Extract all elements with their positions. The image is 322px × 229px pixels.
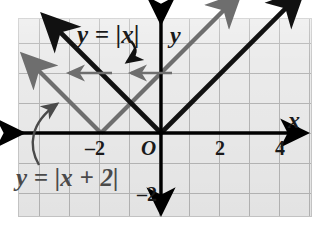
curve-y-equals-abs-x-plus-2 xyxy=(24,0,240,133)
label-transformed-function: y = |x + 2| xyxy=(16,165,119,190)
x-tick-label-4: 4 xyxy=(275,138,285,158)
label-parent-function: y = |x| xyxy=(77,22,140,47)
y-tick-label--2: –2 xyxy=(137,184,157,204)
x-tick-label--2: –2 xyxy=(85,138,105,158)
axis-label-y: y xyxy=(170,23,181,47)
axis-label-x: x xyxy=(288,108,300,132)
graph-vector-layer xyxy=(0,0,322,229)
x-tick-label-2: 2 xyxy=(215,138,225,158)
origin-label: O xyxy=(141,138,156,159)
absolute-value-translation-figure: y = |x| y = |x + 2| y x O –2 2 4 –2 xyxy=(0,0,322,229)
